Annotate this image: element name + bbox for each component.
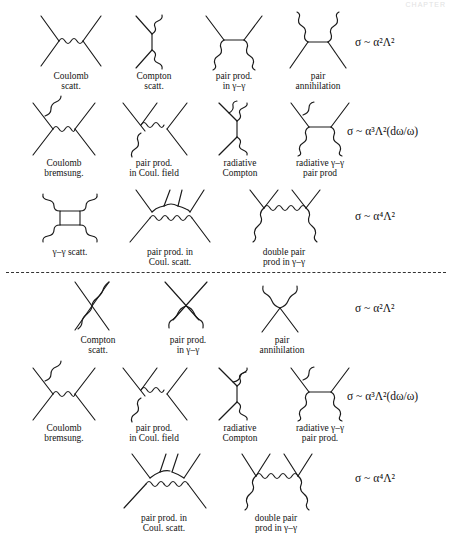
caption-line-2: annihilation bbox=[232, 345, 332, 355]
caption-pair-prod-coul-field: pair prod. in Coul. field bbox=[104, 158, 204, 179]
caption-coulomb-scatt: Coulomb scatt. bbox=[26, 71, 116, 92]
caption-line-2: scatt. bbox=[26, 81, 116, 91]
group-upper-row-2: Coulomb bremsung. pair prod. in Coul. fi… bbox=[0, 103, 452, 183]
caption-radiative-compton-2: radiative Compton bbox=[196, 423, 284, 444]
diagram-pair-prod-gamma-gamma: pair prod. in γ–γ bbox=[190, 14, 278, 92]
caption-pair-prod-gamma-gamma-crossed: pair prod. in γ–γ bbox=[140, 335, 236, 356]
group-lower: Compton scatt. pair prod. in γ–γ bbox=[0, 280, 452, 544]
group-lower-row-2: Coulomb bremsung. pair prod. in Coul. fi… bbox=[0, 368, 452, 448]
feynman-diagram-pair-annihilation-two-photon bbox=[278, 14, 358, 70]
caption-line-1: Compton bbox=[81, 335, 116, 345]
caption-radiative-compton: radiative Compton bbox=[196, 158, 284, 179]
group-upper-row-3: γ–γ scatt. bbox=[0, 190, 452, 265]
order-formula-upper-row-3: σ ~ α⁴Λ² bbox=[355, 210, 395, 222]
caption-line-1: γ–γ scatt. bbox=[53, 247, 88, 257]
caption-line-1: radiative bbox=[224, 158, 257, 168]
diagram-pair-prod-coul-field-2: pair prod. in Coul. field bbox=[104, 368, 204, 444]
caption-line-2: prod in γ–γ bbox=[222, 523, 330, 533]
diagram-double-pair-prod-gamma-gamma: double pair prod in γ–γ bbox=[232, 190, 336, 268]
feynman-diagram-coulomb-bremsstrahlung bbox=[23, 368, 105, 422]
caption-line-1: radiative γ–γ bbox=[296, 158, 344, 168]
order-formula-upper-row-1: σ ~ α²Λ² bbox=[355, 36, 394, 48]
diagram-pair-prod-coul-field: pair prod. in Coul. field bbox=[104, 103, 204, 179]
caption-line-1: double pair bbox=[263, 247, 305, 257]
diagram-double-pair-prod-gamma-gamma-2: double pair prod in γ–γ bbox=[222, 454, 330, 534]
diagram-pair-prod-in-coul-scatt: pair prod. in Coul. scatt. bbox=[118, 190, 222, 268]
diagram-compton-scatt-crossed: Compton scatt. bbox=[52, 280, 144, 356]
caption-radiative-gamma-gamma-pair-prod: radiative γ–γ pair prod bbox=[272, 158, 368, 179]
caption-pair-prod-in-coul-scatt-2: pair prod. in Coul. scatt. bbox=[110, 513, 218, 534]
feynman-diagram-pair-production-in-coulomb-scattering bbox=[114, 454, 214, 512]
caption-line-2: prod in γ–γ bbox=[232, 257, 336, 267]
caption-line-1: Coulomb bbox=[47, 423, 82, 433]
caption-line-2: pair prod bbox=[272, 168, 368, 178]
feynman-diagram-compton-s-channel bbox=[118, 14, 190, 70]
group-upper-row-1: Coulomb scatt. Compton scatt. bbox=[0, 14, 452, 94]
diagram-pair-prod-gamma-gamma-crossed: pair prod. in γ–γ bbox=[140, 280, 236, 356]
caption-line-1: pair bbox=[275, 335, 290, 345]
caption-double-pair-prod-gamma-gamma: double pair prod in γ–γ bbox=[232, 247, 336, 268]
feynman-diagram-compton-crossed bbox=[65, 280, 131, 334]
caption-line-1: pair prod. bbox=[170, 335, 206, 345]
diagram-compton-scatt: Compton scatt. bbox=[111, 14, 197, 92]
order-formula-lower-row-2: σ ~ α³Λ²(dω/ω) bbox=[347, 390, 418, 402]
caption-line-1: pair prod. bbox=[216, 71, 252, 81]
caption-line-2: Coul. scatt. bbox=[118, 257, 222, 267]
caption-line-2: Compton bbox=[196, 168, 284, 178]
caption-compton-scatt-crossed: Compton scatt. bbox=[52, 335, 144, 356]
feynman-diagram-coulomb-bremsstrahlung bbox=[23, 103, 105, 157]
order-formula-lower-row-1: σ ~ α²Λ² bbox=[355, 302, 394, 314]
caption-line-2: in γ–γ bbox=[140, 345, 236, 355]
caption-line-1: Coulomb bbox=[47, 158, 82, 168]
caption-coulomb-bremsung-2: Coulomb bremsung. bbox=[18, 423, 110, 444]
diagram-pair-annihilation-crossed: pair annihilation bbox=[232, 280, 332, 356]
caption-pair-prod-gamma-gamma: pair prod. in γ–γ bbox=[190, 71, 278, 92]
diagram-coulomb-bremsung: Coulomb bremsung. bbox=[18, 103, 110, 179]
feynman-diagram-gamma-gamma-pair-production bbox=[194, 14, 274, 70]
diagram-gamma-gamma-scatt: γ–γ scatt. bbox=[24, 190, 116, 257]
feynman-diagram-radiative-compton bbox=[203, 368, 277, 422]
caption-pair-prod-in-coul-scatt: pair prod. in Coul. scatt. bbox=[118, 247, 222, 268]
feynman-diagram-light-by-light-box bbox=[35, 190, 105, 246]
caption-line-2: Coul. scatt. bbox=[110, 523, 218, 533]
feynman-diagram-gamma-gamma-pair-production-crossed bbox=[155, 280, 221, 334]
diagram-radiative-compton-2: radiative Compton bbox=[196, 368, 284, 444]
caption-line-1: pair prod. bbox=[136, 158, 172, 168]
caption-line-1: pair prod. in bbox=[147, 247, 193, 257]
caption-double-pair-prod-gamma-gamma-2: double pair prod in γ–γ bbox=[222, 513, 330, 534]
caption-line-2: scatt. bbox=[52, 345, 144, 355]
caption-pair-prod-coul-field-2: pair prod. in Coul. field bbox=[104, 423, 204, 444]
caption-line-2: bremsung. bbox=[18, 433, 110, 443]
feynman-diagram-pair-production-in-coulomb-scattering bbox=[120, 190, 220, 246]
caption-line-1: pair prod. in bbox=[141, 513, 187, 523]
feynman-diagram-double-pair-production-gamma-gamma bbox=[228, 454, 324, 512]
caption-line-2: in Coul. field bbox=[104, 168, 204, 178]
diagram-coulomb-scatt: Coulomb scatt. bbox=[26, 14, 116, 92]
caption-pair-annihilation-crossed: pair annihilation bbox=[232, 335, 332, 356]
feynman-diagram-t-channel-photon-exchange bbox=[31, 14, 111, 70]
feynman-diagram-double-pair-production-gamma-gamma bbox=[236, 190, 332, 246]
caption-line-1: double pair bbox=[255, 513, 297, 523]
caption-line-2: pair prod. bbox=[272, 433, 368, 443]
caption-line-1: Coulomb bbox=[54, 71, 89, 81]
diagram-radiative-compton: radiative Compton bbox=[196, 103, 284, 179]
order-formula-lower-row-3: σ ~ α⁴Λ² bbox=[355, 472, 395, 484]
feynman-diagram-radiative-compton bbox=[203, 103, 277, 157]
caption-radiative-gamma-gamma-pair-prod-2: radiative γ–γ pair prod. bbox=[272, 423, 368, 444]
caption-line-1: radiative bbox=[224, 423, 257, 433]
caption-line-2: annihilation bbox=[272, 81, 364, 91]
section-divider bbox=[6, 272, 446, 273]
caption-line-2: scatt. bbox=[111, 81, 197, 91]
feynman-diagram-pair-annihilation-crossed bbox=[249, 280, 315, 334]
caption-line-1: radiative γ–γ bbox=[296, 423, 344, 433]
feynman-diagram-pair-production-coulomb-field bbox=[111, 103, 197, 157]
caption-line-1: pair bbox=[311, 71, 326, 81]
caption-compton-scatt: Compton scatt. bbox=[111, 71, 197, 92]
caption-line-2: Compton bbox=[196, 433, 284, 443]
diagram-pair-annihilation: pair annihilation bbox=[272, 14, 364, 92]
caption-gamma-gamma-scatt: γ–γ scatt. bbox=[24, 247, 116, 257]
diagram-radiative-gamma-gamma-pair-prod-2: radiative γ–γ pair prod. bbox=[272, 368, 368, 444]
caption-line-1: pair prod. bbox=[136, 423, 172, 433]
diagram-radiative-gamma-gamma-pair-prod: radiative γ–γ pair prod bbox=[272, 103, 368, 179]
feynman-diagram-pair-production-coulomb-field bbox=[111, 368, 197, 422]
